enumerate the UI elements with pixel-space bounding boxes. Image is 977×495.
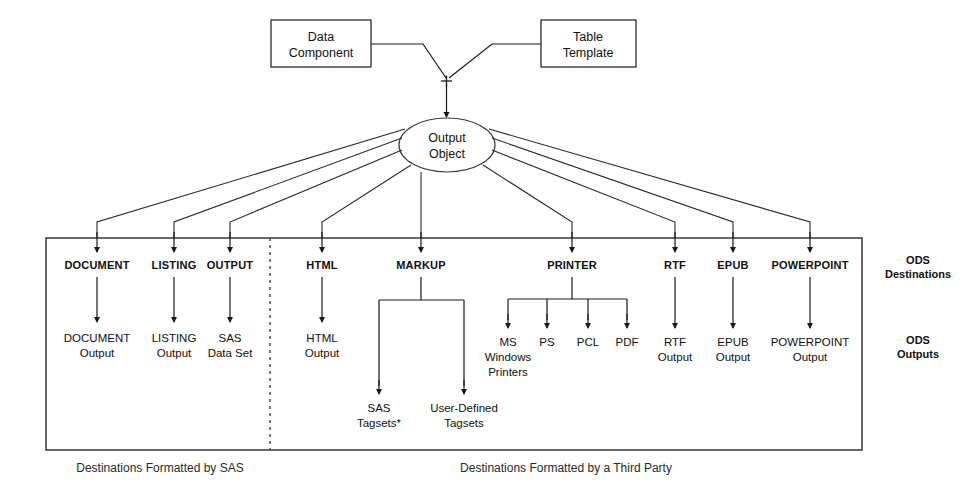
output-label-rtf-line1: RTF	[664, 336, 686, 348]
destination-label-document: DOCUMENT	[64, 259, 129, 271]
markup-child-sas-tagsets-line2: Tagsets*	[357, 417, 402, 429]
side-legend: ODS Destinations ODS Outputs	[885, 254, 951, 360]
destination-label-html: HTML	[306, 259, 337, 271]
printer-child-ms-line3: Printers	[488, 366, 528, 378]
destination-label-markup: MARKUP	[396, 259, 445, 271]
destination-label-powerpoint: POWERPOINT	[771, 259, 848, 271]
destination-column-powerpoint: POWERPOINT POWERPOINT Output	[771, 232, 850, 363]
output-label-rtf-line2: Output	[658, 351, 693, 363]
destination-column-output: OUTPUT SAS Data Set	[207, 232, 253, 359]
side-label-ods-destinations-line1: ODS	[906, 254, 930, 266]
printer-child-ms-line1: MS	[499, 336, 517, 348]
data-component-label-line2: Component	[289, 46, 354, 60]
source-box-data-component: Data Component	[271, 20, 371, 67]
destination-label-printer: PRINTER	[547, 259, 597, 271]
side-label-ods-outputs-line1: ODS	[906, 334, 930, 346]
destination-column-rtf: RTF RTF Output	[658, 232, 693, 363]
printer-child-ms-line2: Windows	[485, 351, 532, 363]
output-label-html-line1: HTML	[306, 332, 338, 344]
output-object-label-line2: Object	[429, 147, 466, 161]
destination-label-output: OUTPUT	[207, 259, 253, 271]
caption-formatted-by-third-party: Destinations Formatted by a Third Party	[460, 461, 672, 475]
output-label-sasdataset-line2: Data Set	[208, 347, 254, 359]
printer-child-pcl-label: PCL	[577, 336, 600, 348]
output-label-document-line1: DOCUMENT	[64, 332, 130, 344]
output-label-powerpoint-line2: Output	[793, 351, 828, 363]
source-box-table-template: Table Template	[541, 20, 636, 67]
destination-column-markup: MARKUP SAS Tagsets* User-Defined Tagsets	[357, 232, 498, 429]
fan-line-rtf	[492, 150, 675, 238]
fan-line-output	[230, 150, 402, 238]
destination-column-document: DOCUMENT DOCUMENT Output	[64, 232, 130, 359]
caption-formatted-by-sas: Destinations Formatted by SAS	[76, 461, 243, 475]
output-label-powerpoint-line1: POWERPOINT	[771, 336, 850, 348]
output-label-listing-line1: LISTING	[152, 332, 197, 344]
printer-branch-bus	[508, 277, 627, 320]
fan-line-document	[97, 129, 405, 238]
fan-line-epub	[492, 138, 733, 238]
output-label-listing-line2: Output	[157, 347, 192, 359]
output-label-epub-line1: EPUB	[717, 336, 749, 348]
markup-child-user-defined-line2: Tagsets	[444, 417, 484, 429]
markup-branch-bus	[379, 277, 464, 386]
output-object-ellipse	[399, 118, 495, 172]
data-component-label-line1: Data	[308, 30, 334, 44]
output-object-node: Output Object	[399, 118, 495, 172]
destination-label-epub: EPUB	[717, 259, 748, 271]
connector-data-component-to-combiner	[371, 44, 446, 78]
destination-column-printer: PRINTER MS Windows Printers PS PCL PDF	[485, 232, 639, 378]
output-label-html-line2: Output	[305, 347, 340, 359]
connector-table-template-to-combiner	[449, 44, 541, 78]
printer-child-pdf-label: PDF	[616, 336, 639, 348]
output-label-sasdataset-line1: SAS	[218, 332, 241, 344]
side-label-ods-outputs-line2: Outputs	[897, 348, 939, 360]
destination-column-epub: EPUB EPUB Output	[716, 232, 751, 363]
output-label-epub-line2: Output	[716, 351, 751, 363]
markup-child-user-defined-line1: User-Defined	[430, 402, 498, 414]
ods-flow-diagram: Data Component Table Template Output Obj…	[0, 0, 977, 495]
markup-child-sas-tagsets-line1: SAS	[367, 402, 390, 414]
destination-column-html: HTML HTML Output	[305, 232, 340, 359]
fan-line-powerpoint	[489, 129, 810, 238]
destination-label-listing: LISTING	[152, 259, 197, 271]
table-template-label-line2: Template	[563, 46, 614, 60]
output-object-label-line1: Output	[428, 131, 466, 145]
fan-line-html	[322, 165, 411, 238]
output-label-document-line2: Output	[80, 347, 115, 359]
destination-column-listing: LISTING LISTING Output	[152, 232, 197, 359]
side-label-ods-destinations-line2: Destinations	[885, 268, 951, 280]
destination-label-rtf: RTF	[664, 259, 686, 271]
printer-child-ps-label: PS	[539, 336, 555, 348]
table-template-label-line1: Table	[573, 30, 603, 44]
diagram-canvas: Data Component Table Template Output Obj…	[0, 0, 977, 495]
